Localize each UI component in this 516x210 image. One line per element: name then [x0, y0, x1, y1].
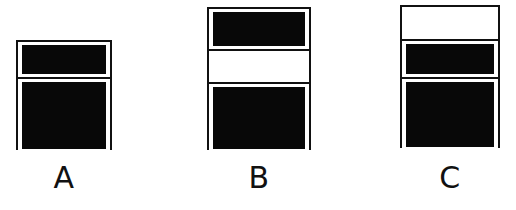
figure-a-compartment-top [18, 42, 110, 77]
figure-b-top-filled-block [213, 12, 305, 46]
figure-b-middle-empty-block [213, 54, 305, 79]
figure-b-compartment-middle [209, 49, 309, 82]
figure-label-c: C [426, 163, 474, 193]
figure-a-compartment-bottom [18, 77, 110, 152]
figure-b-bottom-filled-block [213, 87, 305, 149]
figure-b-compartment-top [209, 9, 309, 49]
figure-c [400, 5, 500, 148]
figure-c-compartment-bottom [402, 77, 498, 150]
figure-c-compartment-top [402, 7, 498, 39]
figure-board: ABC [0, 0, 516, 210]
figure-c-top-empty-block [406, 10, 494, 36]
figure-label-b: B [235, 163, 283, 193]
figure-a-bottom-filled-block [22, 82, 106, 149]
figure-a-top-filled-block [22, 45, 106, 74]
figure-c-bottom-filled-block [406, 82, 494, 147]
figure-label-a: A [40, 163, 88, 193]
figure-c-compartment-middle [402, 39, 498, 77]
figure-b-compartment-bottom [209, 82, 309, 152]
figure-a [16, 40, 112, 150]
figure-b [207, 7, 311, 150]
figure-c-middle-filled-block [406, 44, 494, 74]
